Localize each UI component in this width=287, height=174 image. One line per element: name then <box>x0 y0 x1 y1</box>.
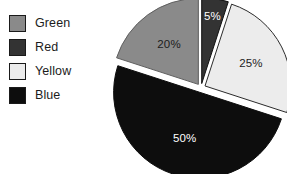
legend-swatch-yellow-icon <box>9 63 26 80</box>
pie-slice-label-blue: 50% <box>173 132 197 144</box>
pie-slice-label-green: 20% <box>157 38 181 50</box>
legend-swatch-blue-icon <box>9 87 26 104</box>
legend-label-yellow: Yellow <box>35 65 71 78</box>
legend-item-blue[interactable]: Blue <box>9 83 114 107</box>
chart-legend: Green Red Yellow Blue <box>9 11 114 109</box>
legend-swatch-red-icon <box>9 39 26 56</box>
legend-item-red[interactable]: Red <box>9 35 114 59</box>
legend-swatch-green-icon <box>9 15 26 32</box>
legend-item-green[interactable]: Green <box>9 11 114 35</box>
pie-chart-svg: 5%25%50%20% <box>112 0 287 174</box>
legend-label-blue: Blue <box>35 89 60 102</box>
pie-slice-label-yellow: 25% <box>239 57 263 69</box>
pie-chart-plot-area: 5%25%50%20% <box>112 0 287 174</box>
legend-label-green: Green <box>35 17 70 30</box>
legend-label-red: Red <box>35 41 58 54</box>
legend-item-yellow[interactable]: Yellow <box>9 59 114 83</box>
pie-chart-figure: Green Red Yellow Blue 5%25%50%20% <box>0 0 287 174</box>
pie-slice-label-red: 5% <box>204 10 221 22</box>
pie-slices-group <box>114 0 287 174</box>
